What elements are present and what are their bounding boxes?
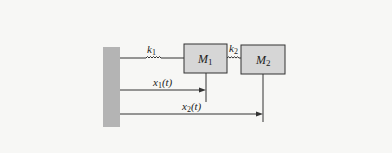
wall bbox=[103, 47, 120, 127]
x2-arrowhead-icon bbox=[256, 112, 263, 117]
x2-label: x2(t) bbox=[181, 100, 202, 114]
x1-label: x1(t) bbox=[152, 76, 173, 90]
spring-k2-label: k2 bbox=[229, 42, 238, 56]
spring-k1-label: k1 bbox=[147, 43, 156, 57]
x1-arrowhead-icon bbox=[199, 88, 206, 93]
spring-k2 bbox=[227, 57, 241, 58]
mass-spring-diagram: k1 M1 k2 M2 x1(t) x2(t) bbox=[0, 0, 392, 153]
